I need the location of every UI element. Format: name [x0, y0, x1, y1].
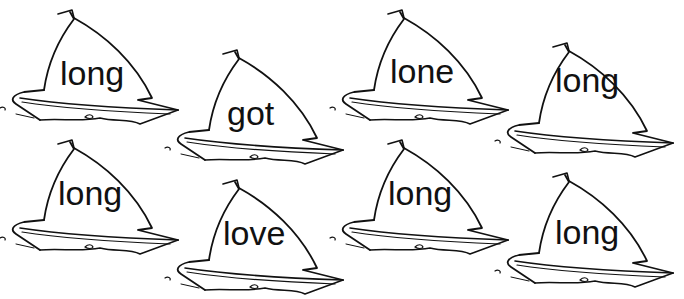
sail-word: long	[555, 215, 619, 249]
sail-word: long	[555, 63, 619, 97]
sail-word: long	[388, 176, 452, 210]
sail-word: long	[60, 56, 124, 90]
sail-word: lone	[390, 54, 454, 88]
sail-word: long	[58, 176, 122, 210]
sailboat-worksheet: long got	[0, 0, 684, 299]
sailboat-8: long	[495, 163, 684, 299]
sail-word: got	[227, 96, 274, 130]
sail-word: love	[223, 216, 285, 250]
